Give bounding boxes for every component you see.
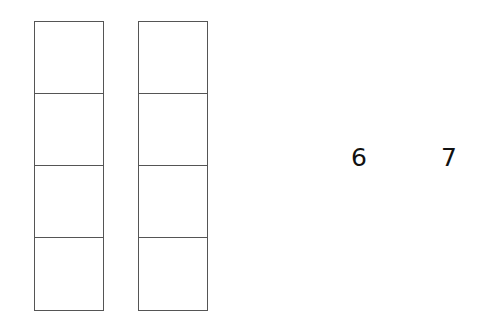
tower-cell	[139, 22, 207, 94]
tower-cell	[35, 166, 103, 238]
tower-cell	[139, 238, 207, 310]
tower-column-2	[138, 21, 208, 311]
tower-cell	[139, 94, 207, 166]
tower-cell	[35, 238, 103, 310]
tower-cell	[139, 166, 207, 238]
number-label-1: 6	[351, 144, 367, 172]
number-label-2: 7	[441, 144, 457, 172]
tower-column-1	[34, 21, 104, 311]
tower-cell	[35, 94, 103, 166]
tower-cell	[35, 22, 103, 94]
